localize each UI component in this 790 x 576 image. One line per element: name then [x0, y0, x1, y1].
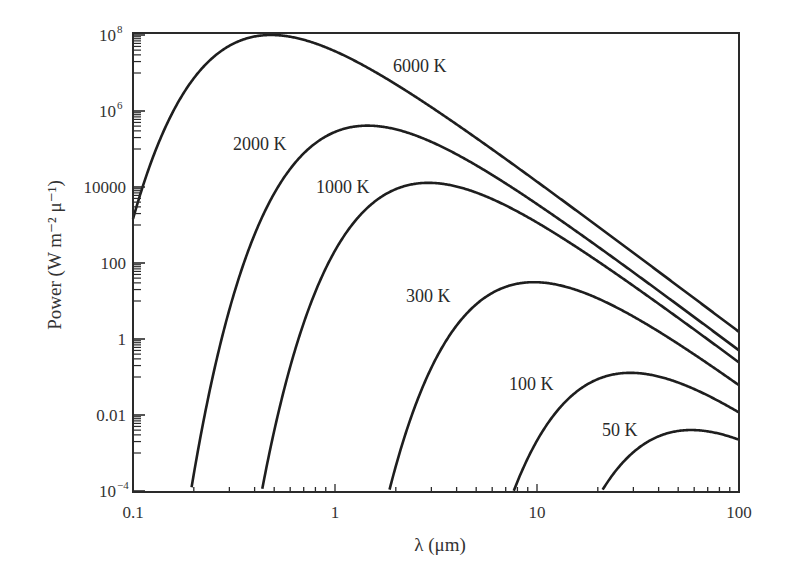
x-tick-label: 100 — [726, 503, 752, 522]
y-tick-label: 10000 — [84, 178, 127, 197]
x-axis-title: λ (μm) — [414, 534, 466, 556]
x-tick-label: 10 — [529, 503, 546, 522]
y-axis-ticks — [133, 35, 145, 491]
y-tick-exponent: 8 — [117, 23, 123, 35]
y-tick-label: 100 — [101, 254, 127, 273]
x-tick-label: 0.1 — [122, 503, 143, 522]
y-tick-exponent: 6 — [117, 99, 123, 111]
curve-label-6000k: 6000 K — [393, 56, 447, 76]
curve-label-100k: 100 K — [509, 374, 554, 394]
y-axis-title: Power (W m⁻² μ⁻¹) — [44, 180, 66, 329]
x-axis-tick-labels: 0.1110100 — [122, 503, 751, 522]
y-tick-exponent: −4 — [117, 479, 129, 491]
curve-label-300k: 300 K — [406, 286, 451, 306]
y-tick-label: 10 — [99, 102, 116, 121]
curve-label-2000k: 2000 K — [233, 134, 287, 154]
y-tick-label: 1 — [118, 330, 127, 349]
curve-label-50k: 50 K — [602, 420, 638, 440]
x-axis-ticks — [133, 484, 730, 492]
y-tick-label: 0.01 — [96, 406, 126, 425]
blackbody-spectrum-chart: 0.1110100 10−40.01110010000106108 6000 K… — [0, 0, 790, 576]
y-tick-label: 10 — [99, 26, 116, 45]
y-tick-label: 10 — [99, 482, 116, 501]
curves-layer — [133, 35, 739, 491]
curve-label-1000k: 1000 K — [316, 177, 370, 197]
y-axis-tick-labels: 10−40.01110010000106108 — [84, 23, 130, 501]
x-tick-label: 1 — [331, 503, 340, 522]
